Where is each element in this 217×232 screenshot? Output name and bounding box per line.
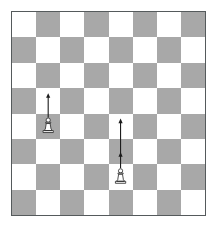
board-square[interactable] bbox=[84, 114, 108, 139]
board-square[interactable] bbox=[133, 190, 157, 215]
board-square[interactable] bbox=[157, 12, 181, 37]
board-square[interactable] bbox=[181, 37, 205, 62]
board-square[interactable] bbox=[109, 88, 133, 113]
board-square[interactable] bbox=[36, 190, 60, 215]
board-square[interactable] bbox=[109, 12, 133, 37]
board-square[interactable] bbox=[60, 114, 84, 139]
board-square[interactable] bbox=[181, 190, 205, 215]
board-square[interactable] bbox=[157, 63, 181, 88]
board-square[interactable] bbox=[84, 139, 108, 164]
board-square[interactable] bbox=[109, 114, 133, 139]
board-square[interactable] bbox=[60, 37, 84, 62]
board-square[interactable] bbox=[12, 114, 36, 139]
chessboard bbox=[11, 11, 206, 216]
board-square[interactable] bbox=[12, 63, 36, 88]
board-square[interactable] bbox=[84, 63, 108, 88]
board-square[interactable] bbox=[109, 164, 133, 189]
board-square[interactable] bbox=[181, 114, 205, 139]
board-square[interactable] bbox=[133, 12, 157, 37]
board-square[interactable] bbox=[109, 139, 133, 164]
board-square[interactable] bbox=[36, 37, 60, 62]
board-square[interactable] bbox=[36, 114, 60, 139]
board-square[interactable] bbox=[133, 114, 157, 139]
board-square[interactable] bbox=[109, 37, 133, 62]
board-square[interactable] bbox=[109, 63, 133, 88]
board-square[interactable] bbox=[181, 63, 205, 88]
board-square[interactable] bbox=[133, 139, 157, 164]
board-square[interactable] bbox=[60, 190, 84, 215]
board-square[interactable] bbox=[60, 63, 84, 88]
board-square[interactable] bbox=[60, 139, 84, 164]
board-square[interactable] bbox=[84, 190, 108, 215]
board-square[interactable] bbox=[181, 139, 205, 164]
board-square[interactable] bbox=[133, 63, 157, 88]
board-square[interactable] bbox=[60, 88, 84, 113]
board-square[interactable] bbox=[36, 139, 60, 164]
board-square[interactable] bbox=[36, 63, 60, 88]
board-square[interactable] bbox=[181, 164, 205, 189]
board-square[interactable] bbox=[84, 164, 108, 189]
board-square[interactable] bbox=[12, 164, 36, 189]
board-square[interactable] bbox=[84, 88, 108, 113]
board-square[interactable] bbox=[181, 12, 205, 37]
board-square[interactable] bbox=[157, 88, 181, 113]
board-square[interactable] bbox=[84, 37, 108, 62]
board-square[interactable] bbox=[12, 37, 36, 62]
board-square[interactable] bbox=[109, 190, 133, 215]
board-square[interactable] bbox=[133, 164, 157, 189]
board-square[interactable] bbox=[12, 139, 36, 164]
figure-canvas bbox=[0, 0, 217, 232]
board-square[interactable] bbox=[60, 164, 84, 189]
board-square[interactable] bbox=[157, 190, 181, 215]
chessboard-squares bbox=[12, 12, 205, 215]
board-square[interactable] bbox=[84, 12, 108, 37]
board-square[interactable] bbox=[157, 139, 181, 164]
board-square[interactable] bbox=[12, 12, 36, 37]
board-square[interactable] bbox=[36, 164, 60, 189]
board-square[interactable] bbox=[157, 114, 181, 139]
board-square[interactable] bbox=[36, 88, 60, 113]
board-square[interactable] bbox=[133, 37, 157, 62]
board-square[interactable] bbox=[36, 12, 60, 37]
board-square[interactable] bbox=[60, 12, 84, 37]
board-square[interactable] bbox=[157, 164, 181, 189]
board-square[interactable] bbox=[157, 37, 181, 62]
board-square[interactable] bbox=[12, 88, 36, 113]
board-square[interactable] bbox=[133, 88, 157, 113]
board-square[interactable] bbox=[181, 88, 205, 113]
board-square[interactable] bbox=[12, 190, 36, 215]
